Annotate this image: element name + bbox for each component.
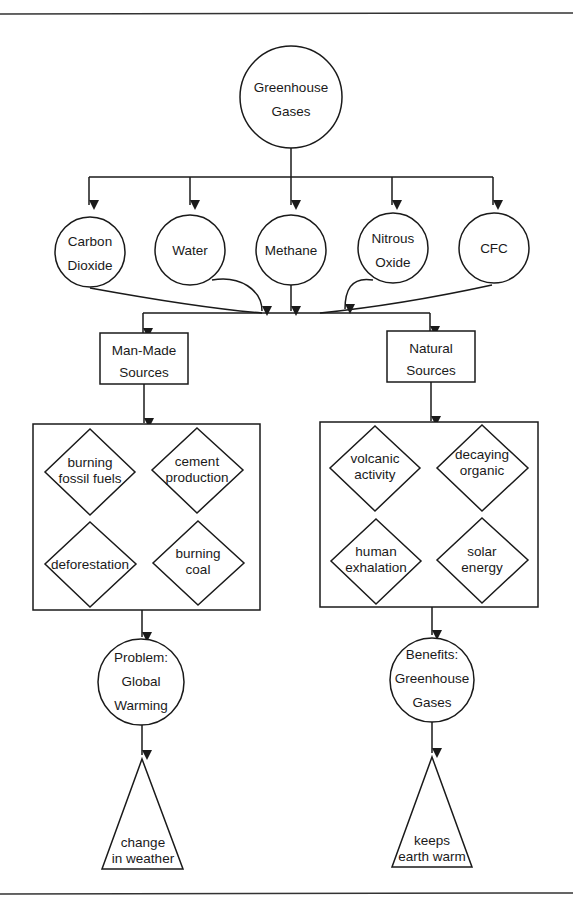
- node-carbon-dioxide: Carbon Dioxide: [55, 217, 125, 287]
- node-benefits-greenhouse-gases: Benefits: Greenhouse Gases: [390, 638, 474, 722]
- node-label: Gases: [271, 104, 310, 119]
- node-label: change: [121, 835, 165, 850]
- node-label: in weather: [112, 851, 175, 866]
- item-label: deforestation: [51, 557, 129, 572]
- item-label: decaying: [455, 447, 509, 462]
- node-cfc: CFC: [459, 213, 529, 283]
- node-label: CFC: [480, 241, 508, 256]
- node-nitrous-oxide: Nitrous Oxide: [358, 213, 428, 283]
- node-label: Man-Made: [112, 343, 177, 358]
- node-change-in-weather: change in weather: [102, 759, 183, 869]
- node-problem-global-warming: Problem: Global Warming: [98, 639, 184, 725]
- node-label: Methane: [265, 243, 318, 258]
- node-label: Warming: [114, 698, 168, 713]
- node-label: Greenhouse: [254, 80, 328, 95]
- node-label: Carbon: [68, 234, 112, 249]
- greenhouse-gases-flowchart: Greenhouse Gases Carbon Dioxide Water Me…: [0, 0, 573, 907]
- node-label: Natural: [409, 341, 453, 356]
- item-label: energy: [461, 560, 503, 575]
- item-label: activity: [354, 467, 396, 482]
- node-keeps-earth-warm: keeps earth warm: [392, 757, 472, 867]
- node-label: Global: [121, 674, 160, 689]
- node-man-made-sources: Man-Made Sources: [100, 333, 188, 384]
- node-label: Greenhouse: [395, 671, 469, 686]
- node-label: Benefits:: [406, 647, 459, 662]
- node-label: earth warm: [398, 849, 466, 864]
- item-label: fossil fuels: [58, 471, 121, 486]
- item-label: exhalation: [345, 560, 407, 575]
- node-label: Problem:: [114, 650, 168, 665]
- natural-examples-box: volcanic activity decaying organic human…: [320, 422, 538, 607]
- item-label: production: [165, 470, 228, 485]
- item-label: solar: [467, 544, 497, 559]
- node-water: Water: [155, 215, 225, 285]
- item-label: coal: [186, 562, 211, 577]
- item-label: burning: [67, 455, 112, 470]
- node-label: Oxide: [375, 255, 410, 270]
- node-label: Gases: [412, 695, 451, 710]
- node-label: Dioxide: [67, 258, 112, 273]
- item-label: organic: [460, 463, 505, 478]
- man-made-examples-box: burning fossil fuels cement production d…: [33, 424, 260, 610]
- top-rule: [0, 13, 573, 14]
- node-natural-sources: Natural Sources: [387, 331, 475, 382]
- node-label: keeps: [414, 833, 450, 848]
- node-greenhouse-gases: Greenhouse Gases: [240, 46, 342, 148]
- item-label: cement: [175, 454, 220, 469]
- converging-connectors: [90, 279, 492, 333]
- node-label: Sources: [406, 363, 456, 378]
- node-methane: Methane: [256, 215, 326, 285]
- item-label: volcanic: [351, 451, 400, 466]
- node-label: Sources: [119, 365, 169, 380]
- connector-arrows: [89, 177, 493, 205]
- node-label: Water: [172, 243, 208, 258]
- item-label: burning: [175, 546, 220, 561]
- bottom-rule: [0, 893, 573, 894]
- item-label: human: [355, 544, 396, 559]
- node-label: Nitrous: [372, 231, 415, 246]
